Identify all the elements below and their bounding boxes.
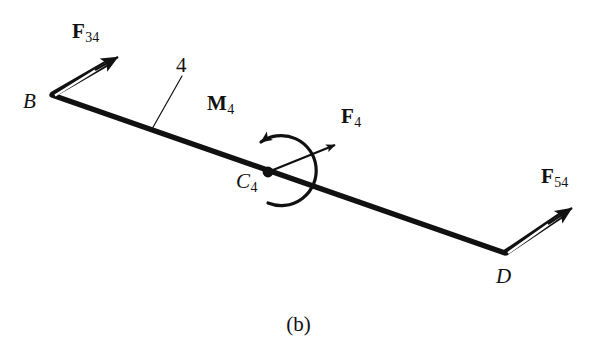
force-label-F4: F4: [341, 106, 361, 130]
force-F34-head-stem: [95, 57, 118, 70]
force-F54-head-stem: [548, 208, 572, 224]
force-label-F54-base: F: [541, 164, 554, 188]
link-number-label-text: 4: [176, 53, 187, 77]
point-label-C4-subscript: 4: [251, 180, 258, 195]
moment-label-M4: M4: [207, 93, 234, 117]
force-label-F34: F34: [72, 21, 99, 45]
force-label-F4-base: F: [341, 104, 354, 128]
force-F4-shaft: [268, 145, 335, 172]
free-body-diagram-figure: F34 F54 F4 M4 B C4 D 4 (b): [0, 0, 597, 356]
force-label-F4-subscript: 4: [354, 115, 361, 130]
link-4-bar: [52, 95, 505, 253]
point-label-D: D: [496, 266, 512, 290]
joint-dot-C4: [263, 167, 274, 178]
moment-label-M4-subscript: 4: [227, 102, 234, 117]
force-label-F54: F54: [541, 166, 568, 190]
point-label-C4-base: C: [236, 169, 250, 193]
point-label-B: B: [23, 91, 36, 115]
figure-caption: (b): [0, 312, 597, 337]
point-label-C4: C4: [236, 171, 258, 195]
point-label-B-base: B: [23, 89, 36, 113]
force-label-F34-subscript: 34: [85, 30, 99, 45]
diagram-canvas: [0, 0, 597, 356]
link-label-leader-line: [152, 76, 182, 129]
force-vector-F4: [268, 145, 335, 172]
link-number-label: 4: [176, 55, 187, 76]
moment-label-M4-base: M: [207, 91, 227, 115]
force-label-F34-base: F: [72, 19, 85, 43]
force-vector-F54: [505, 208, 572, 253]
force-vector-F34: [52, 57, 118, 96]
force-label-F54-subscript: 54: [554, 175, 568, 190]
point-label-D-base: D: [496, 264, 511, 288]
